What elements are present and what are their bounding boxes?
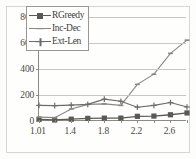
x-tick-mark (55, 120, 56, 123)
x-tick-mark (104, 120, 105, 123)
legend-item: Ext-Len (29, 35, 84, 48)
x-tick-label: 1.01 (30, 126, 46, 136)
x-tick-label: 2.2 (131, 126, 142, 136)
y-tick-mark (36, 95, 39, 96)
data-point-marker (184, 110, 189, 115)
series-rgreedy (36, 110, 189, 122)
legend-item: Inc-Dec (29, 22, 84, 35)
legend-label: Ext-Len (52, 36, 81, 47)
gridline-y (39, 95, 186, 96)
x-tick-mark (88, 120, 89, 123)
legend-item: RGreedy (29, 9, 84, 22)
legend-label: Inc-Dec (52, 23, 81, 34)
x-tick-mark (187, 120, 188, 123)
x-tick-mark (170, 120, 171, 123)
y-tick-label: 200 (20, 90, 34, 100)
legend-label: RGreedy (52, 10, 84, 21)
x-tick-mark (154, 120, 155, 123)
series-line (39, 99, 187, 107)
gridline-y (39, 69, 186, 70)
legend-marker-cross-icon (29, 36, 51, 47)
series-ext-len (36, 96, 190, 110)
y-tick-mark (36, 69, 39, 70)
x-tick-mark (71, 120, 72, 123)
x-axis-labels: 1.011.41.82.22.6 (38, 124, 186, 142)
x-tick-label: 1.8 (98, 126, 109, 136)
x-tick-label: 1.4 (65, 126, 76, 136)
y-tick-label: 0 (29, 116, 34, 126)
x-tick-label: 2.6 (164, 126, 175, 136)
x-tick-mark (121, 120, 122, 123)
data-point-marker (168, 112, 173, 117)
legend-marker-small-dash-icon (29, 23, 51, 34)
y-tick-label: 400 (20, 64, 34, 74)
x-tick-mark (137, 120, 138, 123)
x-tick-mark (39, 120, 40, 123)
data-point-marker (135, 114, 140, 119)
chart-legend: RGreedyInc-DecExt-Len (26, 6, 89, 51)
data-point-marker (151, 113, 156, 118)
legend-marker-filled-square-icon (29, 10, 51, 21)
chart-figure: 0200400600800 1.011.41.82.22.6 RGreedyIn… (0, 0, 196, 159)
